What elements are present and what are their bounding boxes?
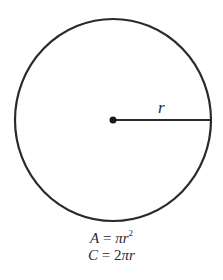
radius-variable: r (129, 247, 135, 263)
radius-label: r (158, 98, 165, 118)
equals-sign: = (98, 247, 114, 263)
coefficient: 2 (114, 247, 122, 263)
circumference-formula: C = 2πr (0, 247, 223, 264)
circle-diagram (0, 0, 223, 230)
pi-symbol: π (115, 230, 123, 246)
exponent: 2 (129, 228, 134, 238)
formulas: A = πr2 C = 2πr (0, 230, 223, 264)
circumference-symbol: C (88, 247, 98, 263)
pi-symbol: π (122, 247, 130, 263)
equals-sign: = (99, 230, 115, 246)
area-formula: A = πr2 (0, 230, 223, 247)
center-point (110, 117, 117, 124)
area-symbol: A (90, 230, 99, 246)
